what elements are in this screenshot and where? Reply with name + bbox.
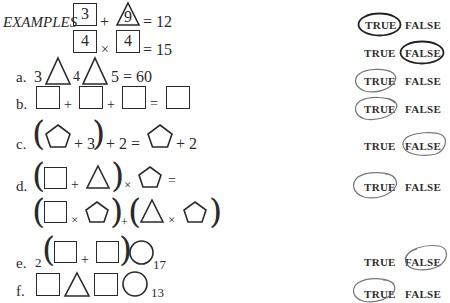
- problem-d-close-paren-1: ): [111, 155, 124, 195]
- example2-square-left-value: 4: [73, 33, 97, 49]
- examples-label: EXAMPLES: [3, 14, 77, 30]
- problem-d-square-1: [44, 167, 67, 189]
- problem-d-pentagon-3: [183, 201, 207, 223]
- problem-d-times-3: ×: [168, 212, 175, 228]
- problem-e-square-2: [96, 241, 119, 263]
- problem-d-equals: =: [168, 173, 176, 189]
- problem-e-coef: 2: [35, 255, 42, 271]
- problem-e-sub: 17: [153, 257, 166, 273]
- problem-d-plus-2: +: [121, 214, 128, 230]
- problem-d-pentagon-1: [138, 166, 162, 188]
- problem-f-square-1: [36, 273, 60, 296]
- example2-answer-circle: [399, 40, 445, 65]
- example1-square-value: 3: [73, 6, 97, 22]
- example2-true-option[interactable]: TRUE: [364, 47, 396, 59]
- problem-e-plus: +: [81, 252, 89, 268]
- problem-d-label: d.: [16, 179, 27, 194]
- problem-a-n2: 4: [73, 69, 80, 85]
- problem-c-close-paren: ): [92, 113, 105, 153]
- problem-f-square-2: [94, 273, 118, 296]
- problem-a-label: a.: [16, 70, 26, 85]
- problem-c-tail: + 2: [176, 136, 197, 152]
- problem-f-answer-circle: [351, 276, 399, 303]
- problem-e-answer-circle: [401, 243, 449, 273]
- problem-b-answer-circle: [353, 95, 400, 121]
- problem-a-triangle-1: [45, 57, 71, 85]
- example1-result: = 12: [143, 14, 172, 30]
- problem-e-true-option[interactable]: TRUE: [364, 256, 396, 268]
- problem-d-triangle-1: [86, 165, 110, 189]
- problem-f-label: f.: [16, 284, 25, 299]
- problem-b-false-option[interactable]: FALSE: [405, 103, 441, 115]
- problem-c-open-paren: (: [32, 113, 45, 153]
- problem-d-answer-circle: [351, 170, 400, 200]
- example1-triangle-value: 9: [116, 9, 140, 25]
- problem-f-sub: 13: [151, 285, 164, 301]
- problem-b-equals: =: [150, 96, 158, 112]
- example2-times: ×: [101, 42, 109, 58]
- problem-f-false-option[interactable]: FALSE: [405, 288, 441, 300]
- problem-f-circle: [122, 271, 148, 297]
- problem-d-pentagon-2: [85, 201, 109, 223]
- problem-b-label: b.: [16, 97, 27, 112]
- problem-a-triangle-2: [82, 57, 108, 85]
- problem-b-square-4: [166, 86, 190, 109]
- problem-d-false-option[interactable]: FALSE: [405, 181, 441, 193]
- problem-b-plus-1: +: [64, 97, 72, 113]
- problem-d-times-2: ×: [71, 212, 78, 228]
- problem-c-mid: + 2 =: [106, 136, 140, 152]
- problem-c-true-option[interactable]: TRUE: [364, 140, 396, 152]
- problem-a-tail: 5 = 60: [111, 69, 152, 85]
- problem-d-close-paren-3: ): [209, 191, 222, 231]
- problem-e-circle: [129, 240, 154, 265]
- problem-c-label: c.: [16, 137, 26, 152]
- problem-c-pentagon-2: [147, 124, 173, 148]
- problem-a-false-option[interactable]: FALSE: [405, 75, 441, 87]
- example1-false-option[interactable]: FALSE: [405, 19, 441, 31]
- problem-c-pentagon-1: [45, 124, 71, 148]
- problem-d-triangle-2: [140, 199, 164, 223]
- problem-b-square-1: [36, 86, 60, 109]
- example1-answer-circle: [357, 12, 402, 37]
- example1-plus: +: [100, 14, 109, 30]
- problem-d-plus: +: [71, 177, 79, 193]
- problem-e-square-1: [54, 241, 77, 263]
- problem-a-answer-circle: [353, 66, 399, 94]
- example2-square-right-value: 4: [116, 33, 140, 49]
- problem-e-label: e.: [16, 256, 26, 271]
- problem-c-answer-circle: [400, 130, 448, 158]
- problem-f-triangle: [64, 272, 90, 297]
- problem-b-square-3: [122, 86, 146, 109]
- problem-b-plus-2: +: [107, 97, 115, 113]
- problem-d-square-2: [44, 201, 67, 223]
- example2-result: = 15: [143, 42, 172, 58]
- problem-a-n1: 3: [34, 69, 42, 85]
- problem-b-square-2: [79, 86, 103, 109]
